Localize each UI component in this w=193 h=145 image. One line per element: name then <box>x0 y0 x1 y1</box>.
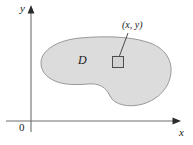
figure-container: y x 0 D (x, y) <box>0 0 193 145</box>
x-axis-arrowhead <box>173 118 182 125</box>
origin-label: 0 <box>19 122 25 133</box>
x-axis-label: x <box>179 127 184 138</box>
y-axis-label: y <box>20 3 25 14</box>
region-label-d: D <box>78 54 87 66</box>
region-d-shape <box>41 37 171 106</box>
point-marker-square <box>113 57 124 68</box>
y-axis-arrowhead <box>28 5 35 14</box>
figure-canvas <box>0 0 193 145</box>
point-coordinate-label: (x, y) <box>122 20 143 30</box>
